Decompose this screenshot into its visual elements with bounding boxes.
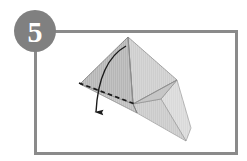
step-number-label: 5 xyxy=(28,15,43,48)
step-number-badge: 5 xyxy=(14,10,56,52)
origami-diagram: 5 xyxy=(0,0,247,161)
origami-step-screenshot: 5 xyxy=(0,0,247,161)
